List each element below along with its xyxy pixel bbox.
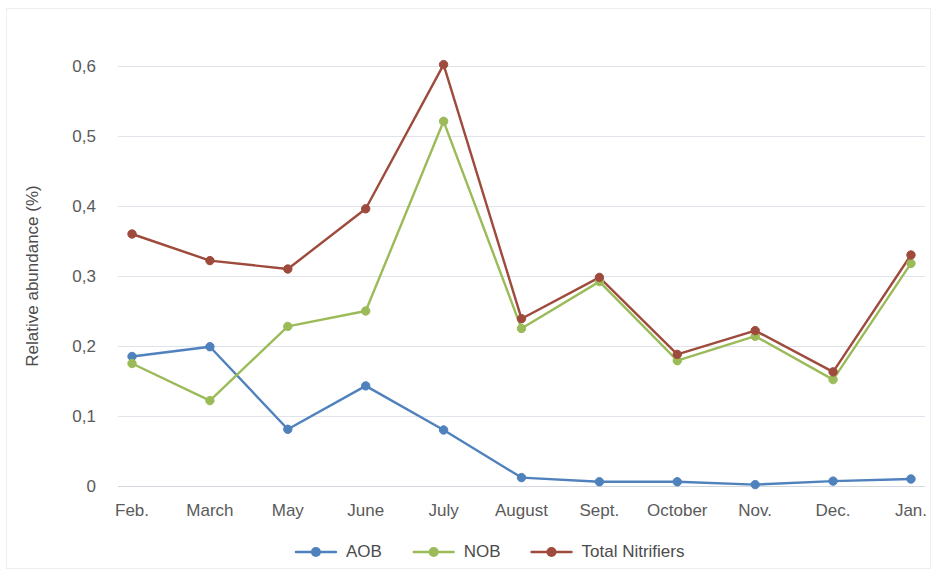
chart-legend[interactable]: AOBNOBTotal Nitrifiers [296, 542, 685, 561]
data-point-aob-October[interactable] [673, 478, 681, 486]
chart-figure: 00,10,20,30,40,50,6 Feb.MarchMayJuneJuly… [0, 0, 939, 583]
x-axis-tick-label: Jan. [895, 501, 927, 520]
y-axis-tick-label: 0,4 [72, 197, 96, 216]
data-point-total-nitrifiers-August[interactable] [517, 315, 525, 323]
x-axis-tick-label: June [347, 501, 384, 520]
data-point-total-nitrifiers-Feb[interactable] [128, 230, 136, 238]
y-axis-tick-label: 0,5 [72, 127, 96, 146]
data-point-nob-June[interactable] [362, 307, 370, 315]
data-point-aob-Sept[interactable] [595, 478, 603, 486]
legend-item-nob-marker [429, 547, 439, 557]
legend-item-aob-label[interactable]: AOB [346, 542, 382, 561]
y-axis-title: Relative abundance (%) [23, 185, 42, 366]
data-point-aob-Dec[interactable] [829, 477, 837, 485]
data-point-aob-June[interactable] [362, 382, 370, 390]
data-point-total-nitrifiers-Sept[interactable] [595, 273, 603, 281]
data-point-total-nitrifiers-May[interactable] [284, 265, 292, 273]
data-point-total-nitrifiers-March[interactable] [206, 256, 214, 264]
y-axis-title-text: Relative abundance (%) [23, 185, 42, 366]
data-point-total-nitrifiers-Dec[interactable] [829, 368, 837, 376]
series-line-aob[interactable] [132, 347, 911, 485]
legend-item-total-nitrifiers-label[interactable]: Total Nitrifiers [582, 542, 685, 561]
legend-item-total-nitrifiers-marker [547, 547, 557, 557]
data-point-total-nitrifiers-October[interactable] [673, 350, 681, 358]
data-point-aob-July[interactable] [439, 426, 447, 434]
data-point-nob-August[interactable] [517, 324, 525, 332]
x-axis-tick-label: Dec. [816, 501, 851, 520]
x-axis-tick-label: March [186, 501, 233, 520]
x-axis-tick-label: May [272, 501, 305, 520]
series-line-nob[interactable] [132, 121, 911, 400]
line-chart[interactable]: 00,10,20,30,40,50,6 Feb.MarchMayJuneJuly… [0, 0, 939, 583]
data-point-aob-August[interactable] [517, 473, 525, 481]
data-point-total-nitrifiers-Jan[interactable] [907, 251, 915, 259]
data-point-nob-May[interactable] [284, 322, 292, 330]
y-axis-tick-label: 0,1 [72, 407, 96, 426]
data-point-nob-Dec[interactable] [829, 375, 837, 383]
x-axis-tick-label: Feb. [115, 501, 149, 520]
data-point-nob-July[interactable] [439, 117, 447, 125]
y-axis-tick-label: 0,6 [72, 57, 96, 76]
y-axis-tick-label: 0,2 [72, 337, 96, 356]
legend-item-nob-label[interactable]: NOB [464, 542, 501, 561]
data-point-total-nitrifiers-July[interactable] [439, 60, 447, 68]
data-point-nob-Feb[interactable] [128, 359, 136, 367]
x-axis-tick-label: July [428, 501, 459, 520]
data-point-aob-Jan[interactable] [907, 475, 915, 483]
data-point-aob-March[interactable] [206, 343, 214, 351]
data-point-total-nitrifiers-Nov[interactable] [751, 326, 759, 334]
y-axis-tick-label: 0 [87, 477, 96, 496]
x-axis-tick-label: August [495, 501, 548, 520]
data-point-aob-Nov[interactable] [751, 480, 759, 488]
gridlines [118, 67, 925, 487]
data-point-nob-Jan[interactable] [907, 259, 915, 267]
x-axis-tick-labels: Feb.MarchMayJuneJulyAugustSept.OctoberNo… [115, 501, 927, 520]
data-point-nob-March[interactable] [206, 396, 214, 404]
x-axis-tick-label: October [647, 501, 708, 520]
data-point-aob-May[interactable] [284, 425, 292, 433]
y-axis-tick-labels: 00,10,20,30,40,50,6 [72, 57, 96, 496]
legend-item-aob-marker [311, 547, 321, 557]
y-axis-tick-label: 0,3 [72, 267, 96, 286]
x-axis-tick-label: Sept. [580, 501, 620, 520]
data-point-total-nitrifiers-June[interactable] [362, 205, 370, 213]
data-series[interactable] [128, 60, 915, 488]
x-axis-tick-label: Nov. [738, 501, 772, 520]
